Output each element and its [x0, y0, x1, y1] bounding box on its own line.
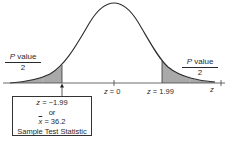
left-tail-label: P value 2 [5, 53, 41, 72]
callout-arrow-head [60, 84, 64, 88]
tick-label-z-0: z = 0 [104, 88, 120, 96]
axis-variable-label: z [210, 86, 214, 94]
right-tail-numerator: P value [182, 58, 218, 68]
callout-or: or [13, 108, 91, 118]
callout-caption: Sample Test Statistic [13, 127, 91, 137]
right-tail-label: P value 2 [182, 58, 218, 77]
sample-test-statistic-callout: z = −1.99 or x = 36.2 Sample Test Statis… [12, 96, 92, 136]
left-tail-denominator: 2 [5, 63, 41, 72]
tick-label-z-1-99: z = 1.99 [147, 88, 174, 96]
right-tail-denominator: 2 [182, 68, 218, 77]
callout-xbar-value: x = 36.2 [13, 117, 91, 127]
callout-z-value: z = −1.99 [13, 98, 91, 108]
left-tail-numerator: P value [5, 53, 41, 63]
